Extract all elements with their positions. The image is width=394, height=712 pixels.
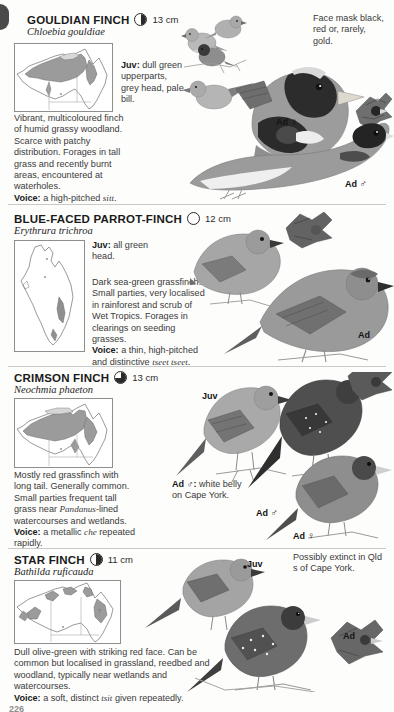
description-crimson: Mostly red grassfinch with long tail. Ge… xyxy=(14,470,136,550)
label-text: Ad xyxy=(276,117,288,127)
species-common-name: STAR FINCH xyxy=(14,554,85,566)
species-common-name: GOULDIAN FINCH xyxy=(27,14,129,26)
species-common-name: BLUE-FACED PARROT-FINCH xyxy=(14,213,182,225)
label-text: Ad xyxy=(293,531,305,541)
female-symbol: ♀ xyxy=(308,530,316,541)
species-size: 13 cm xyxy=(152,14,178,25)
description-text: Mostly red grassfinch with long tail. Ge… xyxy=(14,470,129,526)
species-heading-star: STAR FINCH 11 cm xyxy=(14,553,133,566)
illustration-plate-gouldian xyxy=(180,5,394,200)
distribution-map-parrot-finch xyxy=(14,240,85,352)
label-text: Ad xyxy=(345,179,357,189)
label-text: Juv xyxy=(247,559,263,569)
figure-label-juv-star: Juv xyxy=(247,559,263,569)
pie-quarter-icon xyxy=(134,13,147,26)
juvenile-parrot-finch xyxy=(190,230,284,306)
map-svg: ? xyxy=(15,581,120,643)
voice-label: Voice: xyxy=(14,693,41,703)
label-text: Ad xyxy=(358,330,370,340)
figure-label-ad-star: Ad xyxy=(343,631,355,641)
map-svg xyxy=(15,44,112,111)
species-scientific-name: Chloebia gouldiae xyxy=(27,26,105,37)
callout-label: Juv: xyxy=(92,240,111,250)
species-scientific-name: Erythrura trichroa xyxy=(14,225,93,236)
description-text: Vibrant, multicoloured finch of humid gr… xyxy=(14,113,124,191)
figure-label-juv-crimson: Juv xyxy=(202,391,218,401)
figure-label-ad-female-crimson: Ad ♀ xyxy=(293,530,315,541)
flying-parrot-finch xyxy=(286,212,332,248)
illustration-plate-star xyxy=(125,552,394,692)
species-scientific-name: Neochmia phaeton xyxy=(14,384,93,395)
figure-label-ad-female-gouldian: Ad ♀ xyxy=(276,116,298,127)
species-heading-gouldian: GOULDIAN FINCH 13 cm xyxy=(27,13,178,26)
female-symbol: ♀ xyxy=(291,116,299,127)
description-gouldian: Vibrant, multicoloured finch of humid gr… xyxy=(14,113,124,204)
svg-text:?: ? xyxy=(98,608,101,614)
half-circle-icon xyxy=(90,553,103,566)
label-text: Ad xyxy=(256,508,268,518)
thumb-index-tab xyxy=(0,4,9,30)
figure-label-ad-male-crimson: Ad ♂ xyxy=(256,507,278,518)
species-scientific-name: Bathilda ruficauda xyxy=(14,566,94,577)
figure-label-ad-male-gouldian: Ad ♂ xyxy=(345,178,367,189)
voice-label: Voice: xyxy=(92,345,119,355)
map-svg xyxy=(15,241,84,351)
callout-label: Juv: xyxy=(121,60,140,70)
adult-female-crimson xyxy=(266,456,392,540)
juvenile-crimson xyxy=(176,386,292,482)
distribution-map-gouldian xyxy=(14,43,113,112)
voice-label: Voice: xyxy=(14,193,41,203)
voice-text: a soft, distinct tsit given repeatedly. xyxy=(43,693,183,703)
section-divider-3 xyxy=(8,548,386,549)
plate-svg xyxy=(125,552,394,692)
page-number: 226 xyxy=(9,704,24,712)
juvenile-birds-group xyxy=(181,16,247,67)
species-common-name: CRIMSON FINCH xyxy=(14,372,109,384)
map-svg xyxy=(15,399,112,467)
distribution-map-crimson xyxy=(14,398,113,468)
plate-svg xyxy=(180,5,394,200)
section-divider-2 xyxy=(8,366,386,367)
adult-star-finch xyxy=(187,606,321,692)
flying-star-finch xyxy=(331,620,383,664)
juv-callout-parrot-finch: Juv: all green head. xyxy=(92,240,164,263)
label-text: Ad xyxy=(343,631,355,641)
male-symbol: ♂ xyxy=(360,178,368,189)
description-text: Dark sea-green grassfinch. Small parties… xyxy=(92,277,205,344)
field-guide-page: GOULDIAN FINCH 13 cm Chloebia gouldiae J… xyxy=(0,0,394,712)
voice-label: Voice: xyxy=(14,527,41,537)
distribution-map-star: ? xyxy=(14,580,121,644)
juv-callout-gouldian: Juv: dull green upperparts, grey head, p… xyxy=(121,60,185,106)
description-parrot-finch: Dark sea-green grassfinch. Small parties… xyxy=(92,277,205,368)
voice-text: a high-pitched sitt. xyxy=(43,193,116,203)
label-text: Juv xyxy=(202,391,218,401)
figure-label-ad-parrot-finch: Ad xyxy=(358,330,370,340)
section-divider-1 xyxy=(8,204,386,205)
male-symbol: ♂ xyxy=(271,507,279,518)
